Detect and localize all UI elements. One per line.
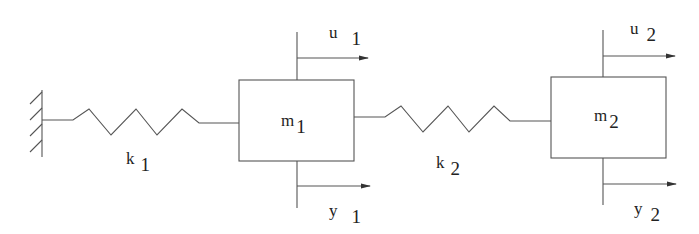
- spring-k2-name: k: [436, 153, 445, 172]
- output-y2-name: y: [634, 199, 643, 218]
- mass-m1-name: m: [281, 111, 294, 130]
- mass-m2-name: m: [594, 106, 607, 125]
- spring-k2-subscript: 2: [451, 158, 461, 179]
- spring-k2-label: k2: [436, 152, 460, 171]
- input-u2-arrow: [603, 30, 675, 77]
- spring-k1-name: k: [126, 149, 135, 168]
- output-y1-name: y: [329, 201, 338, 220]
- input-u2-name: u: [630, 19, 639, 38]
- output-y1-subscript: 1: [352, 206, 362, 227]
- spring-k1: [42, 109, 239, 135]
- spring-k2: [354, 106, 551, 132]
- output-y2-label: y2: [634, 198, 660, 217]
- mass-m1-label: m1: [281, 110, 306, 129]
- mass-m2-subscript: 2: [609, 111, 619, 132]
- fixed-wall: [30, 90, 42, 157]
- spring-k1-label: k1: [126, 148, 150, 167]
- input-u1-subscript: 1: [352, 28, 362, 49]
- spring-k1-subscript: 1: [141, 154, 151, 175]
- mass-m1-subscript: 1: [296, 116, 306, 137]
- output-y1-label: y1: [329, 200, 361, 219]
- input-u2-label: u2: [630, 18, 656, 37]
- mass-m2-label: m2: [594, 105, 619, 124]
- input-u2-subscript: 2: [647, 24, 657, 45]
- input-u1-label: u1: [329, 22, 361, 41]
- output-y2-subscript: 2: [651, 204, 661, 225]
- input-u1-name: u: [329, 23, 338, 42]
